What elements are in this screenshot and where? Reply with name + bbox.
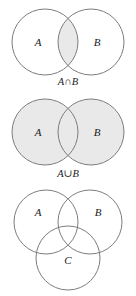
intersection-operator-glyph: ∩ (64, 76, 72, 87)
caption-operand-right: B (72, 76, 79, 87)
label-set-b: B (94, 36, 101, 48)
label-set-a: A (34, 206, 42, 218)
circle-set-b (58, 190, 122, 254)
label-set-a: A (34, 126, 42, 138)
diagram-union: A B A∪B (12, 99, 124, 179)
circle-set-a (14, 190, 78, 254)
caption-union: A∪B (56, 168, 79, 179)
label-set-a: A (34, 36, 42, 48)
label-set-b: B (95, 206, 102, 218)
diagram-intersection: A B A∩B (12, 9, 124, 87)
label-set-b: B (94, 126, 101, 138)
venn-diagram-figure: A B A∩B A B A∪B A B (0, 0, 136, 296)
diagram-three-sets: A B C (14, 190, 122, 290)
venn-diagram-canvas: A B A∩B A B A∪B A B (0, 0, 136, 296)
caption-intersection: A∩B (57, 76, 79, 87)
union-operator-glyph: ∪ (64, 168, 73, 179)
label-set-c: C (64, 254, 72, 266)
caption-operand-right: B (72, 168, 79, 179)
